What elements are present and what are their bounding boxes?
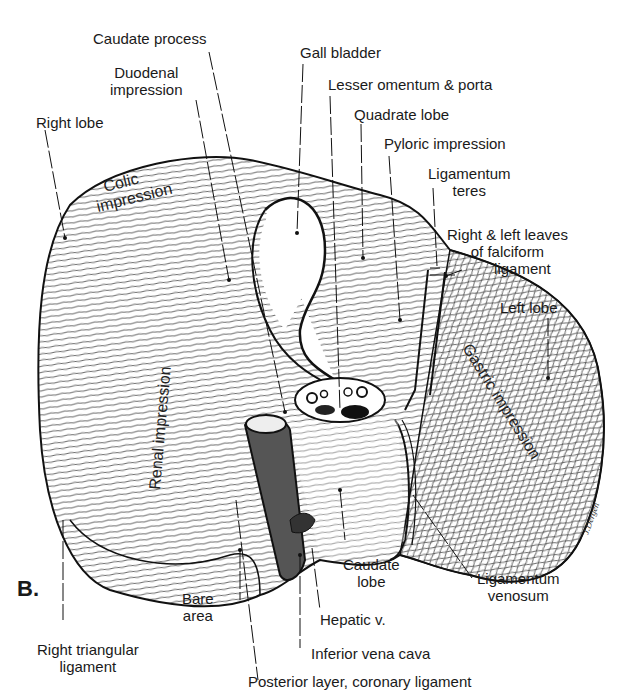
label-caudate-lobe: Caudate lobe	[343, 556, 400, 590]
label-right-lobe: Right lobe	[36, 114, 104, 131]
label-hepatic-v: Hepatic v.	[320, 611, 386, 628]
label-line: venosum	[477, 587, 560, 604]
label-ligamentum-teres: Ligamentum teres	[428, 165, 511, 199]
label-posterior-layer-coronary-ligament: Posterior layer, coronary ligament	[248, 673, 471, 690]
label-left-lobe: Left lobe	[500, 299, 558, 316]
label-pyloric-impression: Pyloric impression	[384, 135, 506, 152]
label-bare-area: Bare area	[182, 590, 214, 624]
label-gall-bladder: Gall bladder	[300, 44, 381, 61]
label-line: Ligamentum	[477, 570, 560, 587]
label-line: teres	[428, 182, 511, 199]
label-caudate-process: Caudate process	[93, 30, 206, 47]
label-inferior-vena-cava: Inferior vena cava	[311, 645, 430, 662]
label-ligamentum-venosum: Ligamentum venosum	[477, 570, 560, 604]
label-duodenal-impression: Duodenal impression	[110, 64, 183, 98]
label-line: Ligamentum	[428, 165, 511, 182]
label-line: ligament	[37, 658, 139, 675]
label-right-triangular-ligament: Right triangular ligament	[37, 641, 139, 675]
label-lesser-omentum: Lesser omentum & porta	[328, 76, 492, 93]
label-line: Right triangular	[37, 641, 139, 658]
label-line: Duodenal	[110, 64, 183, 81]
label-quadrate-lobe: Quadrate lobe	[354, 106, 449, 123]
label-line: area	[182, 607, 214, 624]
label-line: impression	[110, 81, 183, 98]
label-line: of falciform	[447, 243, 568, 260]
label-line: Bare	[182, 590, 214, 607]
label-falciform-ligament: Right & left leaves of falciform ligamen…	[447, 226, 568, 277]
label-line: Caudate	[343, 556, 400, 573]
label-line: Right & left leaves	[447, 226, 568, 243]
panel-label: B.	[17, 576, 39, 602]
label-line: ligament	[447, 260, 568, 277]
label-line: lobe	[343, 573, 400, 590]
